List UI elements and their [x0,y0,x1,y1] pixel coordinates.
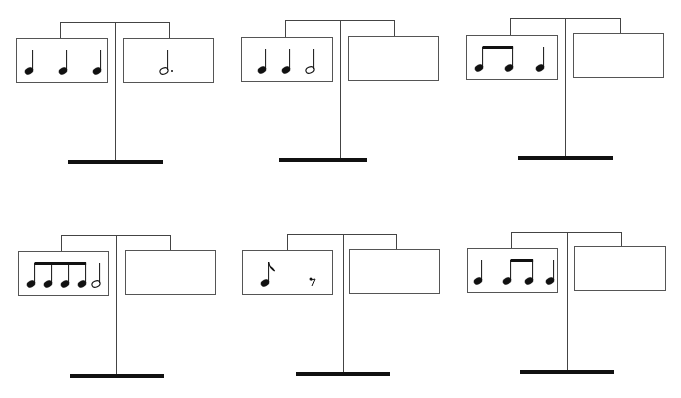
right-pan-answer-box[interactable] [348,36,439,81]
quarter-note-icon [92,50,102,75]
eighth-rest-note-icon [310,278,316,287]
right-pan-answer-box[interactable]: dotted half [123,38,214,83]
left-pan: eighth eighth quarter [466,35,558,80]
right-pan-answer-box[interactable] [574,246,666,291]
scale-pole [116,235,117,374]
left-pan: quarter quarter quarter [16,38,108,83]
scale-pole [565,18,566,156]
eighth-pair-note-icon [474,46,514,72]
scale-base [68,160,163,164]
scale-pole [343,234,344,372]
scale-base [279,158,367,162]
right-pan-answer-box[interactable] [349,249,440,294]
scale-pole [115,22,116,160]
eighth-pair-note-icon [502,259,534,285]
left-pan: quarter eighth eighth quarter [467,248,558,293]
right-pan-answer-box[interactable] [125,250,216,295]
half-note-icon [305,49,315,74]
quarter-note-icon [281,49,291,74]
quarter-note-icon [535,47,545,72]
scale-base [520,370,614,374]
quarter-note-icon [24,50,34,75]
left-pan: quarter quarter half [241,37,333,82]
right-pan-answer-box[interactable] [573,33,664,78]
quarter-note-icon [545,260,555,285]
quarter-note-icon [58,50,68,75]
scale-base [518,156,613,160]
quarter-note-icon [473,260,483,285]
dotted-half-note-icon [159,50,173,75]
scale-base [70,374,164,378]
eighth-group-note-icon [26,262,87,288]
scale-base [296,372,390,376]
rhythm-scales-worksheet: quarter quarter quarter dotted half quar… [0,0,681,398]
eighth-note-icon [260,262,275,287]
scale-pole [340,20,341,158]
left-pan: eighth eighth-rest [242,250,333,295]
half-note-icon [91,263,101,288]
left-pan: four eighths half [18,251,109,296]
scale-pole [567,232,568,370]
quarter-note-icon [257,49,267,74]
